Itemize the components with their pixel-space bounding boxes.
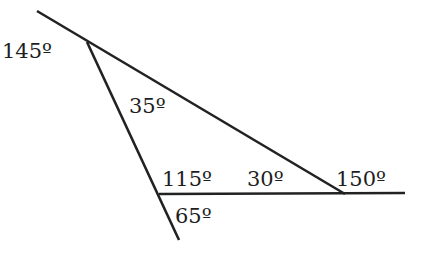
triangle-angle-diagram: 145º 35º 115º 30º 150º 65º [0, 0, 430, 263]
angle-label-interior-bottom-left: 115º [162, 169, 212, 190]
diagram-lines [0, 0, 430, 263]
angle-label-exterior-top: 145º [2, 41, 52, 62]
angle-label-exterior-right: 150º [336, 169, 386, 190]
angle-label-exterior-bottom-left: 65º [175, 206, 212, 227]
left-side-line [87, 42, 179, 240]
base-line [159, 193, 405, 194]
angle-label-interior-right: 30º [247, 169, 284, 190]
angle-label-interior-top: 35º [129, 96, 166, 117]
